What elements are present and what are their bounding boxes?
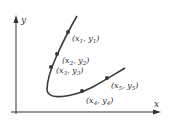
x-axis-label: x [154, 99, 159, 109]
point-4-label: (x4, y4) [86, 96, 113, 106]
point-2-label: (x2, y2) [62, 56, 89, 66]
point-1-label: (x1, y1) [72, 34, 99, 44]
parametric-curve-diagram: y x (x1, y1) (x2, y2) (x3, y3) (x4, y4) … [0, 0, 171, 124]
point-5-label: (x5, y5) [111, 81, 138, 91]
point-3 [49, 65, 53, 69]
point-4 [80, 89, 84, 93]
point-2 [55, 52, 59, 56]
point-3-label: (x3, y3) [56, 66, 83, 76]
point-1 [66, 30, 70, 34]
y-axis-arrow-icon [14, 15, 19, 23]
x-axis-arrow-icon [153, 110, 161, 115]
y-axis-label: y [20, 15, 27, 25]
point-5 [105, 76, 109, 80]
